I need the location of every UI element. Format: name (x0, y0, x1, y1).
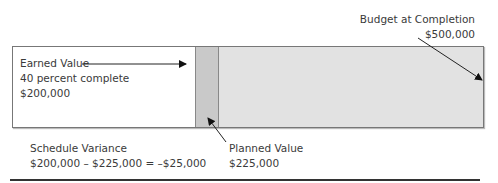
bac-arrow (418, 38, 482, 80)
planned-value-arrow (208, 118, 226, 142)
annotation-arrows (0, 0, 498, 183)
bottom-rule (10, 179, 480, 181)
